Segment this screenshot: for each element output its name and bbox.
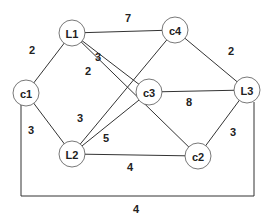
node-L3: L3 — [234, 77, 260, 103]
edge-weights: 723228335434 — [28, 12, 236, 215]
node-L2: L2 — [59, 141, 85, 167]
node-c4: c4 — [162, 17, 188, 43]
node-label: c3 — [143, 87, 155, 99]
edge-weight-label: 3 — [77, 112, 83, 124]
node-c2: c2 — [185, 143, 211, 169]
edge-c3-L3 — [149, 90, 247, 92]
edge-L2-c2 — [72, 154, 198, 156]
edge-c1-L3 — [21, 102, 254, 196]
edge-weight-label: 8 — [186, 96, 192, 108]
edge-weight-label: 2 — [29, 44, 35, 56]
edge-L1-c3 — [72, 33, 149, 92]
node-c3: c3 — [136, 79, 162, 105]
network-graph: 723228335434 L1c4c1c3L3L2c2 — [0, 0, 270, 218]
edge-weight-label: 7 — [125, 12, 131, 24]
edge-weight-label: 3 — [230, 126, 236, 138]
edge-weight-label: 4 — [133, 203, 140, 215]
edge-weight-label: 3 — [28, 124, 34, 136]
edge-weight-label: 2 — [85, 65, 91, 77]
node-L1: L1 — [59, 20, 85, 46]
node-label: c4 — [169, 25, 182, 37]
edge-weight-label: 3 — [95, 51, 101, 63]
edges — [21, 30, 254, 196]
node-label: L1 — [66, 28, 79, 40]
nodes: L1c4c1c3L3L2c2 — [13, 17, 260, 169]
node-c1: c1 — [13, 80, 39, 106]
node-label: L3 — [241, 85, 254, 97]
edge-L1-c4 — [72, 30, 175, 33]
edge-weight-label: 2 — [228, 45, 234, 57]
edge-weight-label: 5 — [103, 132, 109, 144]
edge-c4-L3 — [175, 30, 247, 90]
node-label: c2 — [192, 151, 204, 163]
edge-weight-label: 4 — [127, 161, 134, 173]
node-label: c1 — [20, 88, 32, 100]
edge-c3-L2 — [72, 92, 149, 154]
node-label: L2 — [66, 149, 79, 161]
edge-L1-c2 — [72, 33, 198, 156]
